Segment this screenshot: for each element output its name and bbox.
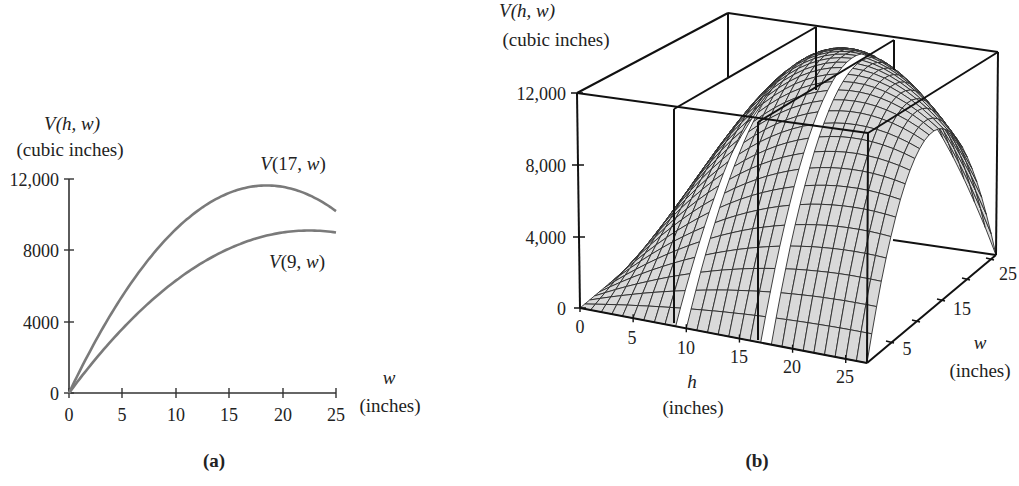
panel-b-ztick-4000: 4,000 xyxy=(526,228,567,248)
panel-b-h-units: (inches) xyxy=(662,397,723,419)
panel-b-surface-plot: V(h, w) (cubic inches) xyxy=(0,0,1019,486)
surface-cell xyxy=(976,191,991,234)
panel-b-ztick-0: 0 xyxy=(557,299,566,319)
panel-b-htick-0: 0 xyxy=(576,317,585,337)
panel-b-wtick-15: 15 xyxy=(953,299,971,319)
panel-b-z-units: (cubic inches) xyxy=(502,29,609,51)
panel-b-wtick-25: 25 xyxy=(999,264,1017,284)
panel-b-z-title: V(h, w) xyxy=(499,0,555,22)
panel-b-ztick-12000: 12,000 xyxy=(517,84,567,104)
panel-b-caption: (b) xyxy=(745,450,768,472)
surface-cell xyxy=(981,209,996,256)
panel-b-htick-10: 10 xyxy=(677,338,695,358)
panel-b-htick-20: 20 xyxy=(783,357,801,377)
panel-b-wtick-5: 5 xyxy=(903,339,912,359)
panel-b-w-title: w xyxy=(974,332,987,353)
panel-b-htick-25: 25 xyxy=(836,367,854,387)
panel-b-w-units: (inches) xyxy=(949,360,1010,382)
panel-b-htick-15: 15 xyxy=(730,347,748,367)
panel-b-h-title: h xyxy=(687,371,697,392)
panel-b-ztick-8000: 8,000 xyxy=(526,156,567,176)
surface-mesh xyxy=(580,48,996,363)
panel-b-htick-5: 5 xyxy=(628,328,637,348)
